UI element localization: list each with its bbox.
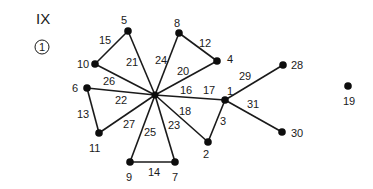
edge-label: 14: [148, 166, 160, 178]
edge-label: 17: [203, 84, 215, 96]
graph-node: [175, 29, 183, 37]
node-label: 2: [203, 148, 209, 160]
graph-node: [91, 60, 99, 68]
graph-node: [279, 61, 287, 69]
graph-diagram: 3121314151617182021222324252627293112456…: [0, 0, 373, 189]
edge-label: 24: [155, 54, 167, 66]
node-label: 9: [126, 171, 132, 183]
node-label: 4: [227, 53, 233, 65]
circled-number-label: 1: [35, 40, 49, 54]
edge-label: 3: [220, 115, 226, 127]
circled-number-text: 1: [39, 41, 45, 53]
edge-label: 29: [239, 70, 251, 82]
edge-label: 16: [180, 84, 192, 96]
roman-numeral-label: IX: [36, 10, 50, 27]
graph-node: [171, 158, 179, 166]
graph-node: [204, 138, 212, 146]
node-label: 30: [291, 127, 303, 139]
node-label: 8: [174, 17, 180, 29]
graph-node: [95, 129, 103, 137]
node-label: 1: [227, 85, 233, 97]
edge-label: 15: [99, 34, 111, 46]
edge-line: [155, 95, 208, 142]
node-label: 10: [77, 58, 89, 70]
graph-node: [344, 82, 352, 90]
hub-node: [152, 92, 159, 99]
node-label: 11: [89, 142, 100, 154]
edge-label: 27: [123, 118, 135, 130]
edge-label: 26: [103, 75, 115, 87]
graph-node: [278, 128, 286, 136]
edge-label: 18: [179, 105, 191, 117]
node-label: 19: [343, 95, 355, 107]
graph-node: [124, 27, 132, 35]
node-label: 28: [291, 59, 303, 71]
graph-node: [83, 84, 91, 92]
edge-label: 12: [199, 37, 211, 49]
edge-label: 25: [144, 126, 156, 138]
edge-label: 22: [115, 94, 127, 106]
edge-label: 13: [77, 108, 89, 120]
graph-node: [213, 57, 221, 65]
edge-label: 31: [247, 98, 259, 110]
graph-node: [126, 158, 134, 166]
edge-label: 21: [126, 56, 138, 68]
edge-label: 20: [177, 65, 189, 77]
graph-node: [221, 96, 229, 104]
edge-line: [225, 65, 283, 100]
edge-label: 23: [168, 119, 180, 131]
node-label: 5: [121, 14, 127, 26]
node-label: 6: [72, 82, 78, 94]
node-label: 7: [172, 171, 178, 183]
edge-line: [179, 33, 217, 61]
